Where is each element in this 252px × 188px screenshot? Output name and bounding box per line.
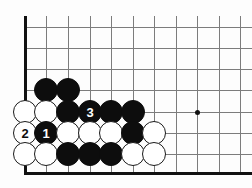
grid-line-vertical-10 [240,16,241,173]
black-stone[interactable] [34,78,58,102]
white-stone[interactable] [34,142,58,166]
black-stone[interactable] [99,142,123,166]
stone-move-number: 2 [21,126,28,139]
stone-move-number: 3 [86,105,93,118]
star-point-0 [195,110,200,115]
grid-line-vertical-9 [219,16,220,173]
go-board-diagram: 321 [0,0,252,188]
grid-line-horizontal-1 [25,48,252,49]
grid-line-horizontal-2 [25,69,252,70]
white-stone[interactable] [142,142,166,166]
black-stone[interactable] [56,142,80,166]
grid-line-vertical-7 [176,16,177,173]
black-stone[interactable] [56,78,80,102]
board-edge-bottom [24,172,252,175]
grid-line-horizontal-0 [25,27,252,28]
grid-line-vertical-8 [197,16,198,173]
stone-move-number: 1 [42,126,49,139]
